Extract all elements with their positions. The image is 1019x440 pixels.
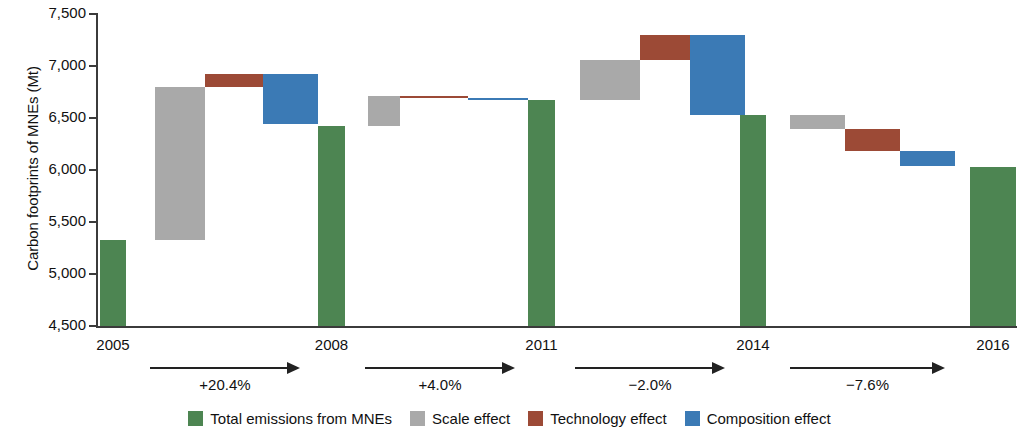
percent-change-label-2: +4.0% (365, 376, 515, 393)
y-axis-tick-label: 7,500 (0, 4, 86, 21)
arrow-line-icon (790, 367, 933, 369)
green-square-swatch (188, 411, 203, 426)
change-arrow-group-4: −7.6% (790, 360, 945, 398)
x-axis-label-2016: 2016 (948, 336, 1019, 353)
bar-technology-effect-2 (400, 96, 468, 98)
change-arrow-group-2: +4.0% (365, 360, 515, 398)
bar-composition-effect-3 (690, 35, 745, 115)
arrow-line-icon (150, 367, 288, 369)
legend-label: Scale effect (432, 410, 510, 427)
arrow-head-icon (932, 362, 945, 374)
y-axis-tick-label: 6,500 (0, 108, 86, 125)
bar-total-emissions-2005 (100, 240, 126, 326)
red-square-swatch (528, 411, 543, 426)
bar-total-emissions-2008 (318, 126, 345, 326)
legend-label: Composition effect (707, 410, 831, 427)
x-axis-label-2008: 2008 (287, 336, 377, 353)
legend-item-2[interactable]: Scale effect (410, 410, 510, 427)
bar-scale-effect-1 (155, 87, 205, 240)
bar-total-emissions-2016 (970, 167, 1016, 326)
x-axis-baseline (97, 326, 1017, 328)
arrow-head-icon (287, 362, 300, 374)
x-axis-label-2011: 2011 (497, 336, 587, 353)
legend-item-1[interactable]: Total emissions from MNEs (188, 410, 392, 427)
bar-scale-effect-4 (790, 115, 845, 130)
y-axis-tick-label: 5,500 (0, 212, 86, 229)
change-arrow-group-3: −2.0% (575, 360, 725, 398)
legend-item-4[interactable]: Composition effect (685, 410, 831, 427)
bar-scale-effect-3 (580, 60, 640, 100)
legend-label: Total emissions from MNEs (210, 410, 392, 427)
arrow-head-icon (712, 362, 725, 374)
legend-item-3[interactable]: Technology effect (528, 410, 666, 427)
arrow-head-icon (502, 362, 515, 374)
percent-change-label-3: −2.0% (575, 376, 725, 393)
bar-technology-effect-1 (205, 74, 263, 86)
bar-technology-effect-3 (640, 35, 690, 60)
legend-label: Technology effect (550, 410, 666, 427)
bar-composition-effect-4 (900, 151, 955, 166)
bar-total-emissions-2014 (740, 115, 766, 326)
bar-technology-effect-4 (845, 129, 900, 151)
x-axis-label-2005: 2005 (68, 336, 158, 353)
chart-legend: Total emissions from MNEsScale effectTec… (0, 410, 1019, 427)
bar-total-emissions-2011 (528, 100, 555, 326)
y-axis-tick-label: 4,500 (0, 316, 86, 333)
blue-square-swatch (685, 411, 700, 426)
arrow-line-icon (365, 367, 503, 369)
x-axis-label-2014: 2014 (708, 336, 798, 353)
bar-composition-effect-2 (468, 98, 528, 100)
percent-change-label-1: +20.4% (150, 376, 300, 393)
y-axis-tick-label: 7,000 (0, 56, 86, 73)
bar-scale-effect-2 (368, 96, 400, 126)
arrow-line-icon (575, 367, 713, 369)
y-axis-tick-label: 6,000 (0, 160, 86, 177)
bar-composition-effect-1 (263, 74, 318, 124)
change-arrow-group-1: +20.4% (150, 360, 300, 398)
waterfall-chart-figure: Carbon footprints of MNEs (Mt) 7,5007,00… (0, 0, 1019, 440)
y-axis-tick-label: 5,000 (0, 264, 86, 281)
percent-change-label-4: −7.6% (790, 376, 945, 393)
gray-square-swatch (410, 411, 425, 426)
y-axis-tick-labels: 7,5007,0006,5006,0005,5005,0004,500 (0, 0, 86, 340)
plot-area (97, 14, 1015, 326)
